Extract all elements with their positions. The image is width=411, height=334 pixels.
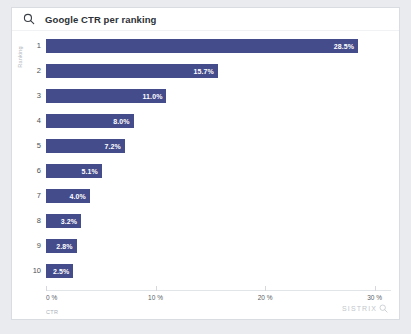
bar-track: 4.0% [46,189,391,203]
chart-plot-area: Ranking 128.5%215.7%311.0%48.0%57.2%65.1… [12,32,401,297]
bar-rank-label: 10 [12,264,41,278]
bar-fill[interactable]: 3.2% [46,214,81,228]
bar-rank-label: 5 [12,139,41,153]
page-title: Google CTR per ranking [45,14,156,25]
x-tick-mark [156,286,157,291]
bar-row: 215.7% [12,64,401,89]
bar-fill[interactable]: 2.5% [46,264,73,278]
bar-track: 11.0% [46,89,391,103]
bar-track: 3.2% [46,214,391,228]
bar-rank-label: 9 [12,239,41,253]
x-tick-label: 30 % [367,294,382,301]
bar-track: 2.8% [46,239,391,253]
bar-fill[interactable]: 15.7% [46,64,218,78]
chart-card: Google CTR per ranking Ranking 128.5%215… [11,7,400,320]
bar-row: 48.0% [12,114,401,139]
bar-row: 83.2% [12,214,401,239]
bar-rank-label: 1 [12,39,41,53]
bar-track: 5.1% [46,164,391,178]
x-tick-label: 20 % [258,294,273,301]
bar-track: 15.7% [46,64,391,78]
bar-value-label: 5.1% [81,168,97,175]
magnifier-icon [379,304,388,313]
bar-value-label: 3.2% [61,218,77,225]
x-axis-ticks: 0 %10 %20 %30 % [46,290,391,310]
bar-row: 65.1% [12,164,401,189]
bar-value-label: 15.7% [194,68,214,75]
screenshot-frame: Google CTR per ranking Ranking 128.5%215… [0,0,411,334]
x-tick-mark [46,286,47,291]
x-tick-mark [265,286,266,291]
bar-track: 28.5% [46,39,391,53]
bar-row: 128.5% [12,39,401,64]
bar-row: 74.0% [12,189,401,214]
bar-row: 102.5% [12,264,401,289]
bar-value-label: 28.5% [334,43,354,50]
bar-rank-label: 7 [12,189,41,203]
bar-rank-label: 8 [12,214,41,228]
x-tick-label: 10 % [148,294,163,301]
bar-value-label: 4.0% [69,193,85,200]
bar-row: 57.2% [12,139,401,164]
bar-fill[interactable]: 11.0% [46,89,166,103]
x-tick-mark [375,286,376,291]
bar-track: 2.5% [46,264,391,278]
bar-track: 8.0% [46,114,391,128]
bar-rank-label: 3 [12,89,41,103]
search-icon [23,13,35,25]
bar-fill[interactable]: 2.8% [46,239,77,253]
bar-value-label: 2.5% [53,268,69,275]
bar-fill[interactable]: 5.1% [46,164,102,178]
bar-track: 7.2% [46,139,391,153]
bar-series: 128.5%215.7%311.0%48.0%57.2%65.1%74.0%83… [12,39,401,289]
brand-name: SISTRIX [342,305,377,312]
bar-fill[interactable]: 8.0% [46,114,134,128]
bar-fill[interactable]: 7.2% [46,139,125,153]
bar-rank-label: 6 [12,164,41,178]
bar-rank-label: 2 [12,64,41,78]
card-header: Google CTR per ranking [12,8,399,31]
bar-row: 92.8% [12,239,401,264]
bar-row: 311.0% [12,89,401,114]
brand-watermark: SISTRIX [342,304,388,313]
bar-value-label: 7.2% [104,143,120,150]
x-axis-title: CTR [46,309,58,315]
bar-value-label: 2.8% [56,243,72,250]
bar-value-label: 8.0% [113,118,129,125]
bar-value-label: 11.0% [143,93,163,100]
bar-fill[interactable]: 28.5% [46,39,358,53]
bar-rank-label: 4 [12,114,41,128]
x-tick-label: 0 % [46,294,57,301]
bar-fill[interactable]: 4.0% [46,189,90,203]
